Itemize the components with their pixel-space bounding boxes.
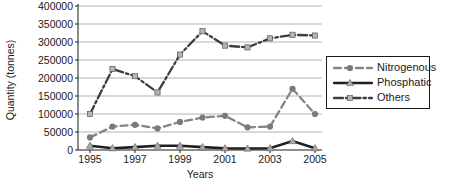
others-line-sample-icon <box>333 92 373 104</box>
legend-item-nitrogenous: Nitrogenous <box>333 61 424 74</box>
svg-text:1999: 1999 <box>168 153 192 165</box>
svg-text:350000: 350000 <box>38 18 73 30</box>
svg-text:1997: 1997 <box>123 153 147 165</box>
x-axis-title: Years <box>187 168 213 180</box>
legend-label: Others <box>377 91 410 104</box>
svg-text:1995: 1995 <box>78 153 102 165</box>
svg-text:300000: 300000 <box>38 36 73 48</box>
legend-label: Nitrogenous <box>377 61 436 74</box>
y-axis-title: Quantity (tonnes) <box>4 40 16 121</box>
svg-text:2001: 2001 <box>213 153 237 165</box>
svg-text:250000: 250000 <box>38 54 73 66</box>
svg-text:2005: 2005 <box>303 153 327 165</box>
svg-text:50000: 50000 <box>44 126 73 138</box>
legend-label: Phosphatic <box>377 76 431 89</box>
svg-text:0: 0 <box>67 144 73 156</box>
legend-item-others: Others <box>333 91 424 104</box>
chart-legend: Nitrogenous Phosphatic Others <box>326 56 430 109</box>
phosphatic-line-sample-icon <box>333 77 373 89</box>
legend-item-phosphatic: Phosphatic <box>333 76 424 89</box>
svg-text:2003: 2003 <box>258 153 282 165</box>
svg-text:400000: 400000 <box>38 0 73 12</box>
fertilizer-quantity-line-chart: Quantity (tonnes) Years 0500001000001500… <box>0 0 452 194</box>
svg-text:100000: 100000 <box>38 108 73 120</box>
svg-text:150000: 150000 <box>38 90 73 102</box>
svg-text:200000: 200000 <box>38 72 73 84</box>
nitrogenous-line-sample-icon <box>333 62 373 74</box>
